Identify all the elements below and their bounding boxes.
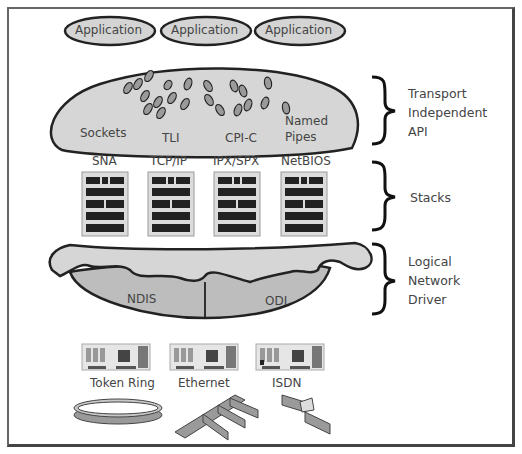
application-label-3: Application — [265, 23, 332, 37]
stack-blocks — [82, 172, 327, 236]
api-label-pipes: Pipes — [285, 130, 317, 144]
api-label-cpic: CPI-C — [225, 131, 257, 145]
network-label-ethernet: Ethernet — [178, 376, 230, 390]
network-cards — [82, 344, 324, 370]
layer-label-stacks: Stacks — [410, 188, 451, 207]
driver-label-ndis: NDIS — [127, 292, 156, 306]
stack-label-ipxspx: IPX/SPX — [213, 154, 259, 168]
network-label-token-ring: Token Ring — [90, 376, 155, 390]
stack-label-netbios: NetBIOS — [281, 154, 331, 168]
token-ring-media — [74, 399, 162, 424]
isdn-media — [282, 395, 330, 434]
driver-lettuce — [50, 243, 372, 318]
api-label-tli: TLI — [162, 131, 180, 145]
application-label-1: Application — [75, 23, 142, 37]
stack-label-tcpip: TCP/IP — [150, 154, 187, 168]
ethernet-media — [175, 395, 258, 440]
layer-braces — [372, 77, 395, 314]
application-label-2: Application — [171, 23, 238, 37]
diagram-graphics — [0, 0, 522, 454]
api-label-named: Named — [285, 114, 328, 128]
api-label-sockets: Sockets — [80, 126, 126, 140]
stack-label-sna: SNA — [92, 154, 117, 168]
network-label-isdn: ISDN — [272, 376, 301, 390]
driver-label-odi: ODI — [265, 294, 287, 308]
layer-label-api: Transport Independent API — [408, 84, 487, 141]
layer-label-driver: Logical Network Driver — [408, 252, 460, 309]
